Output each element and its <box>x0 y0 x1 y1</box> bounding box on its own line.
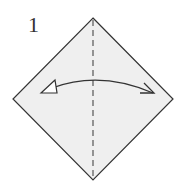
origami-diagram <box>0 0 185 190</box>
